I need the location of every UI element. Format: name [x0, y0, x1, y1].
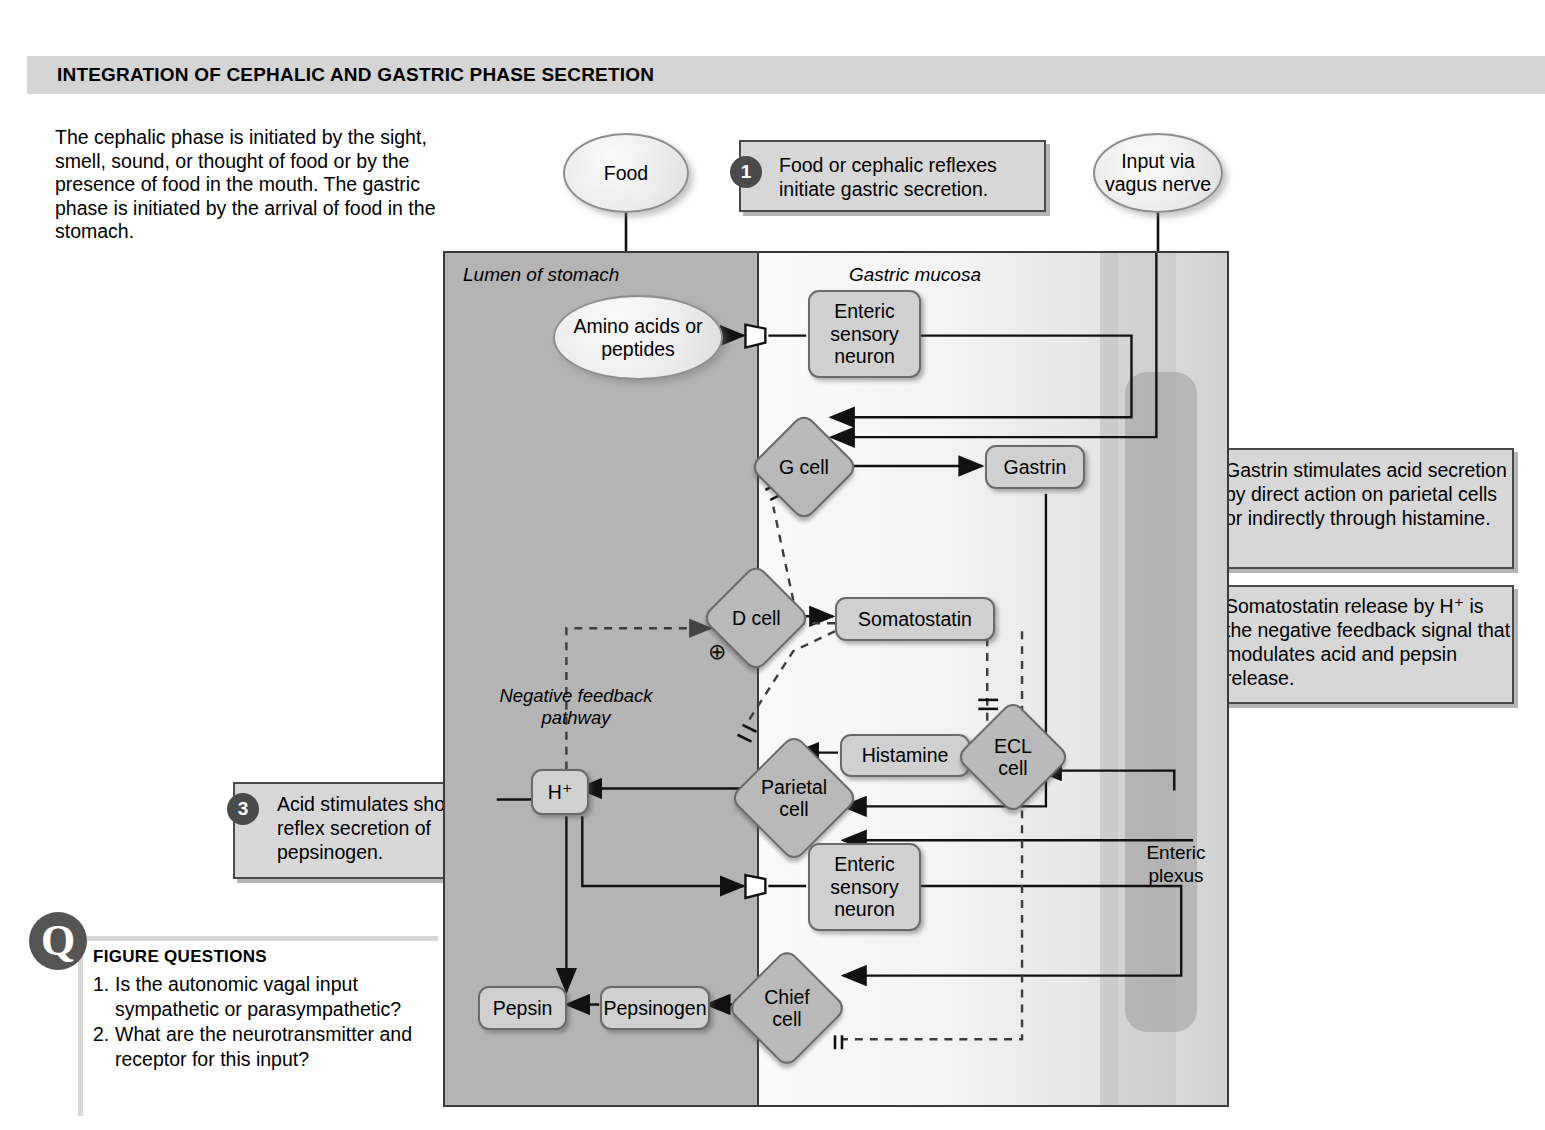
food-label: Food: [604, 162, 648, 185]
figure-questions-rule-vertical: [78, 936, 83, 1116]
figure-question-item: 1. Is the autonomic vagal input sympathe…: [93, 972, 433, 1021]
pepsin-label: Pepsin: [493, 997, 553, 1020]
question-badge-icon: Q: [29, 912, 87, 970]
enteric-sensory-neuron-bottom-label: Enteric sensory neuron: [810, 853, 919, 921]
figure-question-text: What are the neurotransmitter and recept…: [115, 1022, 433, 1071]
h-plus-label: H⁺: [548, 781, 572, 804]
somatostatin-node: Somatostatin: [835, 597, 995, 641]
figure-question-text: Is the autonomic vagal input sympathetic…: [115, 972, 433, 1021]
amino-acids-node: Amino acids or peptides: [553, 295, 723, 380]
figure-question-number: 2.: [93, 1022, 115, 1071]
callout-text-2: Gastrin stimulates acid secretion by dir…: [1225, 458, 1510, 530]
callout-step-4: 4 Somatostatin release by H⁺ is the nega…: [1185, 585, 1514, 704]
enteric-sensory-neuron-bottom-node: Enteric sensory neuron: [808, 843, 921, 931]
figure-question-number: 1.: [93, 972, 115, 1021]
gastrin-node: Gastrin: [985, 445, 1085, 489]
pepsin-node: Pepsin: [478, 986, 567, 1030]
callout-text-4: Somatostatin release by H⁺ is the negati…: [1225, 594, 1513, 690]
parietal-cell-label: Parietal cell: [761, 776, 827, 820]
intro-paragraph: The cephalic phase is initiated by the s…: [55, 126, 445, 244]
ecl-cell-label: ECL cell: [985, 735, 1041, 779]
mucosa-label: Gastric mucosa: [849, 264, 981, 286]
lumen-label: Lumen of stomach: [463, 264, 619, 286]
vagus-label: Input via vagus nerve: [1101, 150, 1215, 196]
figure-question-item: 2. What are the neurotransmitter and rec…: [93, 1022, 433, 1071]
negative-feedback-label: Negative feedback pathway: [485, 685, 667, 729]
amino-acids-label: Amino acids or peptides: [555, 315, 721, 361]
d-cell-label: D cell: [732, 607, 781, 629]
diagram-panel: Lumen of stomach Gastric mucosa Enteric …: [443, 251, 1229, 1107]
enteric-plexus-label: Enteric plexus: [1133, 841, 1219, 887]
callout-text-1: Food or cephalic reflexes initiate gastr…: [779, 153, 1034, 201]
pepsinogen-label: Pepsinogen: [603, 997, 706, 1020]
figure-questions-heading: FIGURE QUESTIONS: [93, 947, 267, 967]
pepsinogen-node: Pepsinogen: [600, 986, 710, 1030]
somatostatin-label: Somatostatin: [858, 608, 972, 631]
page-title: INTEGRATION OF CEPHALIC AND GASTRIC PHAS…: [57, 64, 654, 86]
enteric-sensory-neuron-top-node: Enteric sensory neuron: [808, 290, 921, 378]
chief-cell-label: Chief cell: [759, 986, 815, 1030]
h-plus-node: H⁺: [531, 769, 589, 815]
step-number-badge-3: 3: [227, 793, 259, 825]
gastrin-label: Gastrin: [1004, 456, 1067, 479]
histamine-label: Histamine: [862, 744, 949, 767]
figure-questions-rule: [78, 936, 438, 941]
food-oval: Food: [563, 133, 689, 213]
step-number-badge-1: 1: [730, 156, 762, 188]
diagram-connector-lines: [445, 253, 1227, 1105]
callout-step-1: 1 Food or cephalic reflexes initiate gas…: [739, 140, 1046, 212]
vagus-input-oval: Input via vagus nerve: [1093, 133, 1223, 213]
histamine-node: Histamine: [840, 734, 970, 777]
plus-symbol-icon: ⊕: [708, 641, 726, 663]
lumen-label-text: Lumen of stomach: [463, 264, 619, 285]
figure-questions-list: 1. Is the autonomic vagal input sympathe…: [93, 972, 433, 1072]
enteric-sensory-neuron-top-label: Enteric sensory neuron: [810, 300, 919, 368]
callout-step-2: 2 Gastrin stimulates acid secretion by d…: [1185, 448, 1514, 569]
g-cell-label: G cell: [779, 456, 829, 478]
